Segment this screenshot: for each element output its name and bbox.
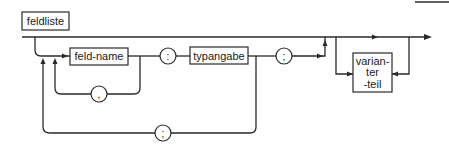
semicolon-loop-terminal: ; bbox=[155, 125, 171, 141]
svg-text:feld-name: feld-name bbox=[75, 50, 124, 62]
variant-part-box: varian- ter -teil bbox=[353, 53, 392, 92]
type-spec-box: typangabe bbox=[190, 47, 248, 64]
colon-terminal: : bbox=[160, 48, 176, 64]
return-arrow-icon bbox=[317, 54, 323, 59]
semicolon-loop-right bbox=[171, 56, 256, 133]
title-box: feldliste bbox=[22, 12, 69, 30]
semicolon-terminal: ; bbox=[276, 48, 292, 64]
variant-exit-arrow-icon bbox=[392, 72, 398, 77]
title-label: feldliste bbox=[27, 15, 64, 27]
up-arrow-icon bbox=[323, 40, 328, 46]
syntax-diagram: feldliste feld-name : typangabe ; , bbox=[0, 0, 449, 153]
entry-arrow-icon bbox=[62, 54, 68, 59]
svg-text:-teil: -teil bbox=[364, 78, 382, 90]
variant-exit-path bbox=[392, 37, 409, 74]
comma-terminal: , bbox=[91, 86, 107, 102]
variant-entry-arrow-icon bbox=[347, 72, 353, 77]
svg-text::: : bbox=[167, 51, 170, 62]
svg-text:,: , bbox=[98, 89, 101, 100]
comma-up-arrow-icon bbox=[53, 58, 58, 64]
svg-text:typangabe: typangabe bbox=[193, 50, 244, 62]
list-entry-path bbox=[35, 37, 70, 56]
flow-arrow-icon bbox=[372, 35, 378, 40]
variant-entry-path bbox=[336, 37, 353, 74]
field-name-box: feld-name bbox=[70, 48, 128, 65]
svg-text:;: ; bbox=[283, 51, 286, 62]
comma-loop-left bbox=[55, 62, 91, 94]
semicolon-up-arrow-icon bbox=[41, 58, 46, 64]
path-return-main bbox=[292, 37, 325, 56]
svg-text:ter: ter bbox=[366, 66, 379, 78]
exit-arrow-icon bbox=[424, 34, 432, 40]
svg-text:;: ; bbox=[162, 128, 165, 139]
